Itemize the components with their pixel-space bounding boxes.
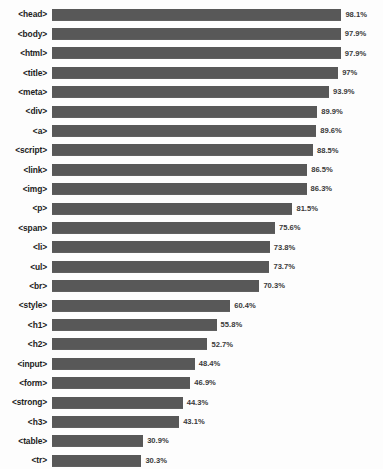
bar-fill[interactable]	[52, 9, 341, 21]
bar-track: 81.5%	[52, 199, 383, 218]
bar-track: 60.4%	[52, 296, 383, 315]
bar-track: 73.8%	[52, 238, 383, 257]
bar-track: 46.9%	[52, 373, 383, 392]
bar-fill[interactable]	[52, 261, 269, 273]
bar-category-label: <form>	[0, 379, 52, 387]
bar-fill[interactable]	[52, 67, 338, 79]
bar-row[interactable]: <div>89.9%	[0, 102, 383, 121]
bar-row[interactable]: <meta>93.9%	[0, 83, 383, 102]
bar-category-label: <br>	[0, 282, 52, 290]
bar-value-label: 89.9%	[321, 108, 343, 116]
bar-track: 55.8%	[52, 315, 383, 334]
bar-value-label: 81.5%	[296, 205, 318, 213]
bar-fill[interactable]	[52, 28, 341, 40]
bar-category-label: <style>	[0, 301, 52, 309]
bar-value-label: 60.4%	[234, 302, 256, 310]
bar-track: 52.7%	[52, 335, 383, 354]
bar-track: 89.6%	[52, 121, 383, 140]
bar-track: 44.3%	[52, 393, 383, 412]
bar-row[interactable]: <h2>52.7%	[0, 335, 383, 354]
bar-category-label: <html>	[0, 49, 52, 57]
bar-fill[interactable]	[52, 280, 259, 292]
bar-category-label: <input>	[0, 360, 52, 368]
bar-row[interactable]: <h1>55.8%	[0, 315, 383, 334]
bar-value-label: 86.3%	[311, 185, 333, 193]
bar-value-label: 97%	[342, 69, 357, 77]
bar-fill[interactable]	[52, 125, 316, 137]
bar-track: 43.1%	[52, 412, 383, 431]
bar-fill[interactable]	[52, 416, 179, 428]
bar-row[interactable]: <ul>73.7%	[0, 257, 383, 276]
bar-value-label: 97.9%	[345, 30, 367, 38]
bar-track: 86.5%	[52, 160, 383, 179]
bar-row[interactable]: <a>89.6%	[0, 121, 383, 140]
bar-category-label: <h3>	[0, 418, 52, 426]
bar-category-label: <tr>	[0, 456, 52, 464]
bar-row[interactable]: <script>88.5%	[0, 141, 383, 160]
bar-row[interactable]: <form>46.9%	[0, 373, 383, 392]
bar-row[interactable]: <title>97%	[0, 63, 383, 82]
bar-track: 48.4%	[52, 354, 383, 373]
bar-value-label: 70.3%	[263, 282, 285, 290]
bar-row[interactable]: <body>97.9%	[0, 24, 383, 43]
bar-track: 89.9%	[52, 102, 383, 121]
bar-category-label: <span>	[0, 224, 52, 232]
bar-value-label: 73.8%	[274, 244, 296, 252]
bar-row[interactable]: <h3>43.1%	[0, 412, 383, 431]
bar-row[interactable]: <head>98.1%	[0, 5, 383, 24]
bar-track: 86.3%	[52, 180, 383, 199]
bar-row[interactable]: <img>86.3%	[0, 180, 383, 199]
bar-category-label: <meta>	[0, 88, 52, 96]
bar-track: 97.9%	[52, 44, 383, 63]
bar-row[interactable]: <input>48.4%	[0, 354, 383, 373]
bar-category-label: <title>	[0, 69, 52, 77]
bar-category-label: <div>	[0, 107, 52, 115]
bar-row[interactable]: <link>86.5%	[0, 160, 383, 179]
bar-category-label: <img>	[0, 185, 52, 193]
bar-fill[interactable]	[52, 47, 341, 59]
bar-track: 88.5%	[52, 141, 383, 160]
bar-fill[interactable]	[52, 358, 195, 370]
bar-category-label: <h1>	[0, 321, 52, 329]
bar-row[interactable]: <li>73.8%	[0, 238, 383, 257]
bar-row[interactable]: <html>97.9%	[0, 44, 383, 63]
bar-row[interactable]: <span>75.6%	[0, 218, 383, 237]
bar-row[interactable]: <br>70.3%	[0, 276, 383, 295]
bar-value-label: 88.5%	[317, 147, 339, 155]
bar-track: 70.3%	[52, 276, 383, 295]
bar-category-label: <a>	[0, 127, 52, 135]
bar-row[interactable]: <p>81.5%	[0, 199, 383, 218]
bar-chart: <head>98.1%<body>97.9%<html>97.9%<title>…	[0, 0, 383, 469]
bar-fill[interactable]	[52, 222, 275, 234]
bar-fill[interactable]	[52, 183, 307, 195]
bar-fill[interactable]	[52, 164, 307, 176]
bar-value-label: 44.3%	[187, 399, 209, 407]
bar-row[interactable]: <strong>44.3%	[0, 393, 383, 412]
bar-value-label: 46.9%	[194, 379, 216, 387]
bar-row[interactable]: <style>60.4%	[0, 296, 383, 315]
bar-category-label: <li>	[0, 243, 52, 251]
bar-fill[interactable]	[52, 144, 313, 156]
bar-fill[interactable]	[52, 455, 141, 467]
bar-value-label: 30.3%	[145, 457, 167, 465]
bar-fill[interactable]	[52, 203, 292, 215]
bar-row[interactable]: <tr>30.3%	[0, 451, 383, 469]
bar-fill[interactable]	[52, 86, 329, 98]
bar-fill[interactable]	[52, 377, 190, 389]
bar-value-label: 93.9%	[333, 88, 355, 96]
bar-chart-rows: <head>98.1%<body>97.9%<html>97.9%<title>…	[0, 5, 383, 469]
bar-category-label: <script>	[0, 146, 52, 154]
bar-fill[interactable]	[52, 435, 143, 447]
bar-fill[interactable]	[52, 397, 183, 409]
bar-fill[interactable]	[52, 338, 207, 350]
bar-fill[interactable]	[52, 319, 217, 331]
bar-value-label: 86.5%	[311, 166, 333, 174]
bar-category-label: <body>	[0, 30, 52, 38]
bar-category-label: <table>	[0, 437, 52, 445]
bar-value-label: 30.9%	[147, 437, 169, 445]
bar-fill[interactable]	[52, 300, 230, 312]
bar-fill[interactable]	[52, 106, 317, 118]
bar-value-label: 52.7%	[211, 341, 233, 349]
bar-fill[interactable]	[52, 241, 270, 253]
bar-row[interactable]: <table>30.9%	[0, 432, 383, 451]
